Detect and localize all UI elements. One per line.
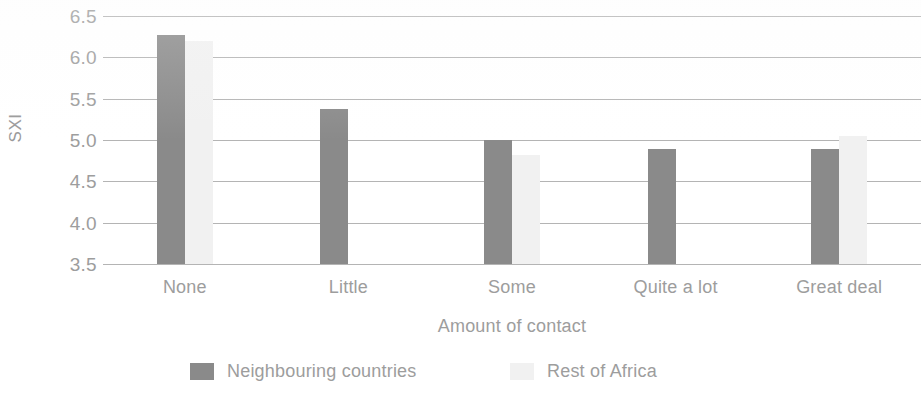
bar-group xyxy=(757,16,921,264)
bar-group xyxy=(103,16,267,264)
x-axis-title: Amount of contact xyxy=(103,316,921,337)
x-axis-category-label: Great deal xyxy=(796,276,882,298)
x-axis-category-label: Little xyxy=(329,276,368,298)
bar[interactable] xyxy=(185,41,213,264)
y-axis-tick-label: 6.0 xyxy=(45,48,97,67)
y-axis-tick-label: 5.0 xyxy=(45,131,97,150)
x-axis-category-label: Some xyxy=(488,276,536,298)
y-axis-tick-label: 4.5 xyxy=(45,172,97,191)
y-axis-tick-label: 5.5 xyxy=(45,89,97,108)
bar-group xyxy=(594,16,758,264)
y-axis-tick-label: 4.0 xyxy=(45,213,97,232)
bar-group xyxy=(267,16,431,264)
y-axis-tick-label: 3.5 xyxy=(45,255,97,274)
bar[interactable] xyxy=(512,155,540,264)
x-axis-category-label: Quite a lot xyxy=(633,276,717,298)
legend-label: Neighbouring countries xyxy=(227,360,417,382)
bar[interactable] xyxy=(811,149,839,264)
legend-item[interactable]: Rest of Africa xyxy=(510,358,657,384)
plot-area xyxy=(103,16,921,264)
bar[interactable] xyxy=(648,149,676,264)
legend-label: Rest of Africa xyxy=(547,360,657,382)
bar-chart-figure: SXI 6.56.05.55.04.54.03.5 NoneLittleSome… xyxy=(0,0,921,401)
bar-group xyxy=(430,16,594,264)
bar[interactable] xyxy=(839,136,867,264)
bars-layer xyxy=(103,16,921,264)
x-axis-category-label: None xyxy=(163,276,207,298)
chart-legend: Neighbouring countriesRest of Africa xyxy=(0,358,921,388)
gridline xyxy=(103,264,921,265)
x-axis-category-labels: NoneLittleSomeQuite a lotGreat deal xyxy=(103,276,921,302)
legend-swatch-icon xyxy=(190,363,214,380)
legend-swatch-icon xyxy=(510,363,534,380)
bar[interactable] xyxy=(320,109,348,264)
bar[interactable] xyxy=(157,35,185,264)
y-axis-title: SXI xyxy=(6,98,26,158)
legend-item[interactable]: Neighbouring countries xyxy=(190,358,417,384)
y-axis-tick-label: 6.5 xyxy=(45,7,97,26)
bar[interactable] xyxy=(484,140,512,264)
y-axis-tick-labels: 6.56.05.55.04.54.03.5 xyxy=(45,16,97,264)
